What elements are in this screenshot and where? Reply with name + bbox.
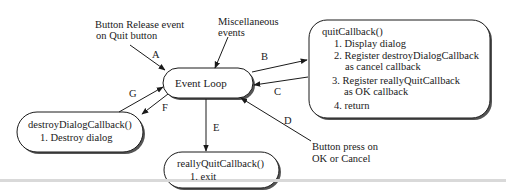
quit-callback-step-1: 1. Display dialog — [334, 38, 406, 50]
misc-events-label-2: events — [218, 27, 245, 39]
quit-callback-title: quitCallback() — [322, 26, 383, 38]
edge-label-e: E — [213, 122, 219, 134]
really-quit-title: reallyQuitCallback() — [177, 158, 264, 170]
button-press-label-1: Button press on — [312, 141, 378, 153]
edge-label-c: C — [274, 86, 281, 98]
edge-d-arrow — [241, 98, 311, 141]
edge-label-d: D — [284, 115, 292, 127]
destroy-dialog-step-1: 1. Destroy dialog — [40, 132, 113, 144]
quit-callback-step-2b: as cancel callback — [345, 61, 421, 73]
bottom-rule — [0, 179, 506, 182]
edge-misc-arrow — [215, 37, 228, 68]
edge-label-a: A — [152, 49, 160, 61]
button-release-label-2: on Quit button — [96, 30, 157, 42]
edge-g-arrow — [119, 87, 163, 112]
quit-callback-step-4: 4. return — [334, 100, 370, 112]
event-loop-label: Event Loop — [175, 77, 227, 89]
really-quit-step-1: 1. exit — [190, 171, 216, 183]
destroy-dialog-title: destroyDialogCallback() — [28, 119, 132, 131]
edge-label-g: G — [129, 88, 137, 100]
edge-label-f: F — [162, 102, 168, 114]
button-press-label-2: OK or Cancel — [312, 153, 370, 165]
quit-callback-step-3b: as OK callback — [344, 86, 408, 98]
edge-label-b: B — [261, 51, 268, 63]
edge-c-arrow — [254, 77, 308, 85]
